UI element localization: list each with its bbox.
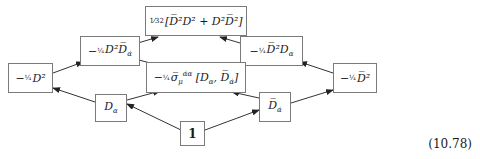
equation-number: (10.78): [428, 137, 472, 151]
node-mid-left: − ¼D²D̅α̇: [80, 36, 140, 66]
arrow-far-right-to-mid-right: [300, 62, 333, 73]
arrow-mid-left-to-top: [138, 37, 158, 43]
node-middle: − ¼σ̅μα̇α [Dα, D̅α̇]: [146, 62, 246, 93]
arrow-one-to-dbar: [205, 110, 259, 130]
node-far-left: − ¼D²: [8, 63, 53, 93]
arrow-one-to-d-alpha: [127, 104, 181, 130]
arrow-dbar-to-far-right: [291, 90, 333, 103]
arrow-far-left-to-mid-left: [53, 62, 83, 73]
node-top: 1⁄32[D̅²D² + D²D̅²]: [145, 6, 247, 36]
node-far-right: − ¼D̅²: [333, 63, 377, 93]
node-mid-right: − ¼D̅²Dα: [240, 36, 303, 66]
node-one: 1: [180, 121, 205, 146]
node-dbar-alphadot: D̅α̇: [259, 92, 291, 122]
arrow-d-alpha-to-far-left: [53, 88, 95, 102]
node-d-alpha: Dα: [95, 94, 127, 122]
arrow-mid-right-to-top: [220, 37, 240, 43]
